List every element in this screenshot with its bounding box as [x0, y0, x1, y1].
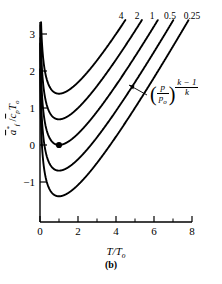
x-axis-title: T/To — [106, 245, 125, 260]
curve-label-4: 4 — [119, 11, 124, 21]
pressure-ratio-fraction: p po — [157, 83, 169, 106]
y-axis-title: a*f /cpTo — [5, 83, 21, 153]
x-tick-label: 8 — [189, 225, 195, 237]
x-tick-label: 0 — [37, 225, 43, 237]
x-tick-label: 6 — [151, 225, 157, 237]
y-tick-label: 2 — [30, 65, 36, 77]
y-tick-label: 0 — [30, 139, 36, 151]
x-ticks: 02468 — [37, 216, 195, 237]
curve-label-0.5: 0.5 — [164, 11, 176, 21]
curve-label-1: 1 — [150, 11, 155, 21]
curve-4 — [41, 20, 125, 94]
data-point-marker — [56, 142, 62, 148]
pressure-ratio-numerator: p — [157, 83, 169, 92]
figure-caption: (b) — [0, 259, 222, 270]
marker-group — [56, 142, 62, 148]
chart-canvas: 02468−101234210.50.25T/To — [0, 0, 222, 284]
y-tick-label: 1 — [30, 102, 36, 114]
pressure-ratio-denominator: po — [157, 93, 169, 106]
paren-open: ( — [150, 83, 157, 105]
exponent-numerator: k − 1 — [175, 78, 198, 87]
exponent-denominator: k — [175, 87, 198, 97]
x-tick-label: 4 — [113, 225, 119, 237]
figure-panel-b: 02468−101234210.50.25T/To a*f /cpTo ( p … — [0, 0, 222, 284]
y-tick-label: −1 — [23, 176, 35, 188]
x-tick-label: 2 — [75, 225, 81, 237]
y-tick-label: 3 — [30, 28, 36, 40]
curve-labels: 4210.50.25 — [119, 11, 201, 21]
exponent-fraction: k − 1 k — [175, 78, 198, 98]
curve-label-0.25: 0.25 — [184, 11, 201, 21]
curve-label-2: 2 — [135, 11, 140, 21]
curve-group — [40, 20, 188, 196]
annotation-leader — [129, 85, 147, 95]
pressure-ratio-annotation: ( p po ) k − 1 k — [150, 83, 198, 106]
paren-close: ) — [169, 83, 176, 105]
